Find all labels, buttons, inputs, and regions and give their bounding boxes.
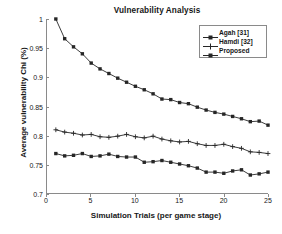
data-point-marker <box>116 155 119 158</box>
data-point-marker <box>116 76 119 79</box>
legend-label-agah: Agah [31] <box>219 28 249 37</box>
y-tick-label: 0.95 <box>13 45 43 52</box>
x-tick-label: 20 <box>212 197 236 204</box>
legend-item-1[interactable]: Hamdi [32] <box>202 37 264 46</box>
x-tick-mark <box>90 194 91 197</box>
legend-item-2[interactable]: Proposed <box>202 46 264 55</box>
legend: Agah [31] Hamdi [32] Proposed <box>199 25 267 58</box>
data-point-marker <box>160 97 163 100</box>
data-point-marker <box>90 61 93 64</box>
data-point-marker <box>160 159 163 162</box>
data-point-marker <box>151 92 154 95</box>
y-tick-mark <box>46 48 49 49</box>
series-line <box>56 130 268 154</box>
data-point-marker <box>169 161 172 164</box>
series-2 <box>54 152 270 177</box>
data-point-marker <box>178 101 181 104</box>
data-point-marker <box>98 67 101 70</box>
data-point-marker <box>107 152 110 155</box>
data-point-marker <box>54 152 57 155</box>
x-tick-mark <box>224 194 225 197</box>
data-point-marker <box>204 108 207 111</box>
data-point-marker <box>240 168 243 171</box>
data-point-marker <box>143 161 146 164</box>
data-point-marker <box>98 154 101 157</box>
data-point-marker <box>196 105 199 108</box>
data-point-marker <box>204 170 207 173</box>
x-tick-mark <box>268 194 269 197</box>
legend-marker-plus-icon <box>202 37 219 46</box>
data-point-marker <box>63 154 66 157</box>
data-point-marker <box>72 45 75 48</box>
x-tick-label: 5 <box>78 197 102 204</box>
legend-label-proposed: Proposed <box>219 46 249 55</box>
legend-item-0[interactable]: Agah [31] <box>202 28 264 37</box>
data-point-marker <box>151 160 154 163</box>
data-point-marker <box>222 172 225 175</box>
data-point-marker <box>196 166 199 169</box>
data-point-marker <box>125 81 128 84</box>
data-point-marker <box>63 37 66 40</box>
data-point-marker <box>81 152 84 155</box>
legend-marker-square-icon <box>202 46 219 55</box>
data-point-marker <box>90 155 93 158</box>
y-tick-label: 0.75 <box>13 161 43 168</box>
data-point-marker <box>187 164 190 167</box>
legend-marker-square-icon <box>202 28 219 37</box>
y-tick-label: 0.9 <box>13 74 43 81</box>
y-tick-label: 1 <box>13 16 43 23</box>
series-line <box>56 154 268 175</box>
data-point-marker <box>213 111 216 114</box>
x-axis-tick-labels: 0510152025 <box>46 197 268 209</box>
y-tick-mark <box>46 136 49 137</box>
data-point-marker <box>107 72 110 75</box>
x-tick-label: 0 <box>34 197 58 204</box>
data-point-marker <box>266 170 269 173</box>
data-point-marker <box>54 17 57 20</box>
data-point-marker <box>222 112 225 115</box>
data-point-marker <box>231 115 234 118</box>
chart-title: Vulnerability Analysis <box>46 6 268 15</box>
data-point-marker <box>257 172 260 175</box>
data-point-marker <box>257 119 260 122</box>
data-point-marker <box>213 170 216 173</box>
x-tick-mark <box>46 194 47 197</box>
y-tick-mark <box>46 165 49 166</box>
data-point-marker <box>169 98 172 101</box>
y-tick-mark <box>46 107 49 108</box>
data-point-marker <box>72 154 75 157</box>
y-tick-mark <box>46 77 49 78</box>
x-tick-label: 15 <box>167 197 191 204</box>
data-point-marker <box>266 123 269 126</box>
y-tick-mark <box>46 19 49 20</box>
data-point-marker <box>240 117 243 120</box>
y-tick-label: 0.8 <box>13 132 43 139</box>
data-point-marker <box>178 162 181 165</box>
data-point-marker <box>134 85 137 88</box>
x-tick-label: 10 <box>123 197 147 204</box>
data-point-marker <box>249 120 252 123</box>
data-point-marker <box>81 52 84 55</box>
legend-label-hamdi: Hamdi [32] <box>219 37 253 46</box>
x-tick-mark <box>135 194 136 197</box>
y-axis-tick-labels: 0.70.750.80.850.90.951 <box>10 19 43 194</box>
data-point-marker <box>143 88 146 91</box>
data-point-marker <box>125 155 128 158</box>
data-point-marker <box>249 173 252 176</box>
vulnerability-analysis-figure: Vulnerability Analysis Average vulnerabi… <box>0 0 282 234</box>
data-point-marker <box>231 169 234 172</box>
x-tick-label: 25 <box>256 197 280 204</box>
x-tick-mark <box>179 194 180 197</box>
data-point-marker <box>187 102 190 105</box>
series-1 <box>53 127 270 156</box>
data-point-marker <box>134 155 137 158</box>
x-axis-label: Simulation Trials (per game stage) <box>36 211 276 220</box>
y-tick-label: 0.85 <box>13 103 43 110</box>
